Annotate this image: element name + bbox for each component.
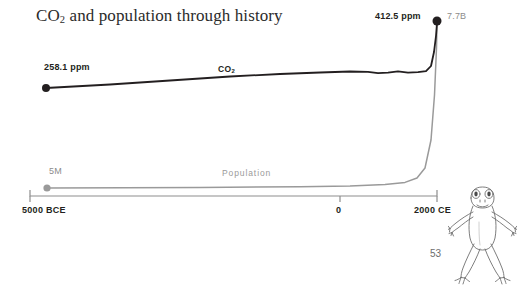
population-line xyxy=(47,24,437,188)
co2-series-label-subscript: 2 xyxy=(232,68,236,74)
x-axis-label-end: 2000 CE xyxy=(414,205,451,215)
co2-start-annotation: 258.1 ppm xyxy=(44,62,90,72)
x-axis-label-zero: 0 xyxy=(336,205,341,215)
population-series-label: Population xyxy=(222,168,271,178)
co2-start-marker xyxy=(42,84,50,92)
chart-plot-area xyxy=(0,0,517,286)
co2-end-annotation: 412.5 ppm xyxy=(375,11,421,21)
page-number: 53 xyxy=(430,248,441,259)
x-axis-label-start: 5000 BCE xyxy=(22,205,66,215)
population-start-marker xyxy=(43,184,50,191)
chart-page: CO2 and population through history 258.1… xyxy=(0,0,517,286)
co2-line xyxy=(46,23,437,88)
population-end-annotation: 7.7B xyxy=(447,11,466,21)
co2-end-marker xyxy=(433,17,442,26)
population-start-annotation: 5M xyxy=(49,166,62,176)
frog-illustration xyxy=(448,182,517,286)
x-axis-line xyxy=(30,190,437,196)
co2-series-label: CO2 xyxy=(218,64,235,74)
